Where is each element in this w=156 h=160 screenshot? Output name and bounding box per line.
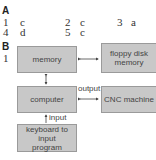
- connector-arrows: [0, 0, 156, 160]
